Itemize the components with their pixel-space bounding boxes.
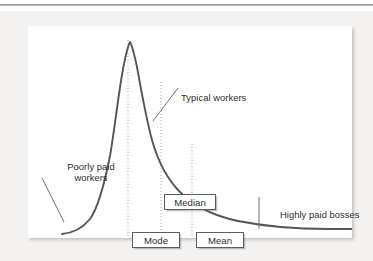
stat-label-mode: Mode bbox=[132, 232, 180, 248]
annotation-highly-paid-bosses: Highly paid bosses bbox=[280, 209, 360, 220]
annotation-typical-workers: Typical workers bbox=[181, 92, 246, 103]
stat-label-mean: Mean bbox=[196, 232, 244, 248]
annotation-poorly-paid-workers: Poorly paid workers bbox=[62, 161, 120, 183]
figure-card: Typical workers Poorly paid workers High… bbox=[28, 26, 352, 238]
poorly-paid-workers-leader-line bbox=[42, 178, 64, 222]
stat-label-median: Median bbox=[164, 194, 216, 210]
figure-page: Typical workers Poorly paid workers High… bbox=[0, 0, 373, 261]
typical-workers-leader-line bbox=[153, 88, 178, 121]
page-top-rule bbox=[0, 4, 373, 6]
plot-area: Typical workers Poorly paid workers High… bbox=[28, 26, 352, 238]
